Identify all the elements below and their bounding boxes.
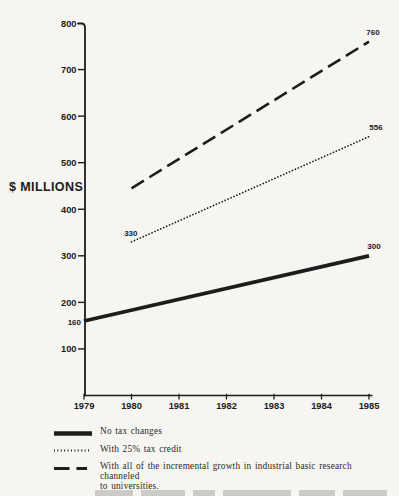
chart-legend: No tax changesWith 25% tax creditWith al… — [53, 426, 389, 496]
data-label: 300 — [367, 242, 381, 251]
data-label: 760 — [366, 28, 380, 37]
y-axis-title: $ MILLIONS — [9, 180, 83, 194]
line-chart: 8007006005004003002001001979198019811982… — [0, 0, 399, 420]
x-tick-label: 1981 — [169, 401, 190, 411]
data-label: 330 — [124, 229, 138, 238]
legend-solid-line-icon — [53, 429, 97, 438]
x-tick-label: 1984 — [311, 401, 333, 411]
y-tick-label: 800 — [61, 19, 77, 29]
x-tick-label: 1979 — [74, 401, 95, 411]
y-tick-label: 300 — [61, 251, 77, 261]
series-line-1 — [132, 137, 370, 242]
legend-label: With 25% tax credit — [100, 444, 182, 454]
cropped-caption-artifact — [95, 489, 387, 496]
y-tick-label: 500 — [61, 158, 77, 168]
legend-label: No tax changes — [100, 426, 162, 436]
legend-item: With all of the incremental growth in in… — [53, 461, 389, 491]
legend-label: With all of the incremental growth in in… — [100, 461, 389, 491]
y-tick-label: 400 — [61, 205, 77, 215]
y-tick-label: 600 — [61, 112, 77, 122]
legend-dashed-line-icon — [53, 464, 97, 473]
legend-dotted-line-icon — [53, 446, 97, 455]
scanned-chart-page: 8007006005004003002001001979198019811982… — [0, 0, 399, 496]
x-tick-label: 1985 — [359, 401, 380, 411]
series-line-0 — [84, 256, 369, 321]
y-tick-label: 200 — [61, 298, 77, 308]
legend-item: With 25% tax credit — [53, 444, 389, 456]
y-tick-label: 700 — [61, 65, 77, 75]
x-tick-label: 1983 — [264, 401, 285, 411]
y-tick-label: 100 — [61, 344, 77, 354]
x-tick-label: 1982 — [216, 401, 237, 411]
series-line-2 — [132, 42, 370, 189]
data-label: 556 — [369, 123, 383, 132]
x-tick-label: 1980 — [121, 401, 142, 411]
legend-item: No tax changes — [53, 426, 389, 438]
data-label: 160 — [68, 318, 82, 327]
